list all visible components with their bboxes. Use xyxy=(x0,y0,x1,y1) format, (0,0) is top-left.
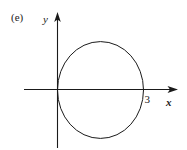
y-axis-label: y xyxy=(43,14,48,25)
graph-canvas xyxy=(0,0,187,150)
part-label: (e) xyxy=(11,12,23,23)
x-intercept-label: 3 xyxy=(145,94,151,105)
figure-container: (e) y 3 x xyxy=(0,0,187,150)
x-axis-label: x xyxy=(166,97,172,108)
